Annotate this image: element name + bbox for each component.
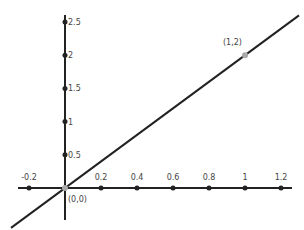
x-tick-label: 0.2	[95, 173, 108, 182]
ticks: -0.20.20.40.60.811.20.511.522.5	[21, 18, 287, 191]
x-tick-label: 0.6	[167, 173, 180, 182]
x-tick	[27, 186, 32, 191]
y-tick	[63, 53, 68, 58]
point-marker	[62, 185, 68, 191]
y-tick	[63, 20, 68, 25]
x-tick-label: 0.8	[203, 173, 216, 182]
data-line	[11, 15, 299, 227]
x-tick	[243, 186, 248, 191]
y-tick	[63, 86, 68, 91]
y-tick-label: 0.5	[68, 151, 81, 160]
y-tick-label: 1.5	[68, 84, 81, 93]
x-tick	[135, 186, 140, 191]
point-label: (0,0)	[68, 195, 87, 204]
x-tick	[207, 186, 212, 191]
x-tick-label: 1	[242, 173, 247, 182]
point-label: (1,2)	[223, 38, 242, 47]
x-tick-label: 1.2	[275, 173, 288, 182]
y-tick-label: 2	[68, 51, 73, 60]
y-tick	[63, 152, 68, 157]
x-tick	[279, 186, 284, 191]
y-tick-label: 2.5	[68, 18, 81, 27]
x-tick	[171, 186, 176, 191]
axes	[18, 15, 292, 220]
x-tick-label: 0.4	[131, 173, 144, 182]
y-tick	[63, 119, 68, 124]
series-line	[11, 15, 299, 227]
line-chart: -0.20.20.40.60.811.20.511.522.5 (0,0)(1,…	[0, 0, 304, 230]
x-tick	[99, 186, 104, 191]
y-tick-label: 1	[68, 118, 73, 127]
x-tick-label: -0.2	[21, 173, 37, 182]
point-marker	[242, 52, 248, 58]
